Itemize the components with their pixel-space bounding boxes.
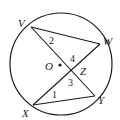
point-label-o: O — [45, 60, 53, 72]
point-label-y: Y — [98, 94, 106, 106]
chord-vw — [31, 27, 100, 44]
point-label-z: Z — [80, 65, 87, 77]
point-label-x: X — [21, 107, 30, 119]
angle-label-4: 4 — [70, 53, 75, 64]
chord-xw — [33, 44, 100, 105]
angle-label-1: 1 — [52, 89, 57, 100]
angle-label-3: 3 — [68, 77, 73, 88]
center-dot — [58, 63, 61, 66]
chord-xy — [33, 96, 95, 105]
chord-vy — [31, 27, 95, 96]
angle-label-2: 2 — [49, 35, 54, 46]
point-label-v: V — [18, 17, 26, 29]
point-label-w: W — [103, 35, 113, 47]
circle-diagram: V W X Y Z O 2 4 3 1 — [0, 0, 120, 120]
